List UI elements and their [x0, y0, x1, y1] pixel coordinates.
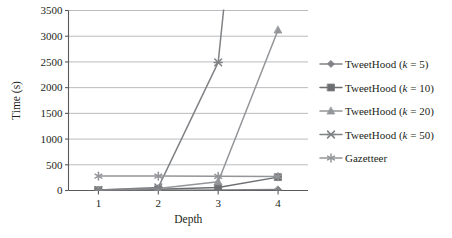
- legend-label-3: TweetHood (k = 50): [345, 129, 434, 142]
- legend-label-suffix-2: = 20): [407, 105, 434, 118]
- series-line-4: [98, 176, 278, 177]
- y-tick-label-500: 500: [46, 159, 63, 171]
- legend-label-4: Gazetteer: [345, 152, 387, 164]
- legend-label-prefix-1: TweetHood (: [345, 82, 403, 95]
- x-tick-label-2: 2: [156, 197, 162, 209]
- square-marker-icon: [328, 84, 335, 91]
- y-tick-label-1500: 1500: [41, 107, 64, 119]
- legend-label-prefix-2: TweetHood (: [345, 105, 403, 118]
- y-tick-label-1000: 1000: [41, 133, 64, 145]
- y-tick-label-3500: 3500: [41, 4, 64, 16]
- legend-label-suffix-1: = 10): [407, 82, 434, 95]
- y-tick-label-0: 0: [57, 184, 63, 196]
- chart-figure: 0500100015002000250030003500 1234 Time (…: [0, 0, 452, 238]
- x-axis-title: Depth: [174, 213, 202, 226]
- legend-label-2: TweetHood (k = 20): [345, 105, 434, 118]
- x-tick-label-4: 4: [275, 197, 281, 209]
- x-tick-label-3: 3: [215, 197, 221, 209]
- legend-label-prefix-0: TweetHood (: [345, 58, 403, 71]
- y-axis-title: Time (s): [10, 81, 23, 120]
- legend-label-1: TweetHood (k = 10): [345, 82, 434, 95]
- x-tick-label-1: 1: [96, 197, 102, 209]
- y-tick-label-2500: 2500: [41, 56, 64, 68]
- legend-label-suffix-3: = 50): [407, 129, 434, 142]
- legend-label-suffix-0: = 5): [407, 58, 428, 71]
- time-vs-depth-line-chart: 0500100015002000250030003500 1234 Time (…: [0, 0, 452, 238]
- legend-label-prefix-3: TweetHood (: [345, 129, 403, 142]
- y-tick-label-2000: 2000: [41, 81, 64, 93]
- y-tick-label-3000: 3000: [41, 30, 64, 42]
- legend-label-0: TweetHood (k = 5): [345, 58, 429, 71]
